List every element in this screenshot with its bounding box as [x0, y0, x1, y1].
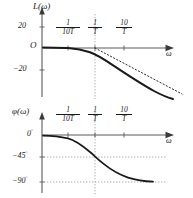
- bode-plot-figure: L(ω) 20 O −20 1 10T 1 T 10 T ω φ(ω) 0° −…: [0, 0, 193, 198]
- phase-exact-curve: [43, 136, 153, 182]
- magnitude-xtick-label-10overT-denominator: T: [116, 27, 132, 36]
- magnitude-ytick-label-20: 20: [18, 22, 26, 30]
- phase-ytick-label-0: 0°: [27, 128, 33, 138]
- phase-xtick-label-1overT-denominator: T: [88, 114, 102, 123]
- phase-ytick-label-0-unit: °: [31, 128, 33, 133]
- phase-xtick-label-1overT-numerator: 1: [88, 106, 102, 114]
- magnitude-xtick-label-1overT-denominator: T: [88, 27, 102, 36]
- phase-y-axis-arrow: [39, 112, 45, 120]
- phase-ytick-label-minus45-value: −45: [12, 151, 25, 160]
- magnitude-xtick-label-1overT: 1 T: [88, 19, 102, 35]
- phase-ytick-label-minus45: −45°: [12, 150, 27, 160]
- magnitude-xtick-label-1over10T-numerator: 1: [56, 19, 80, 27]
- magnitude-ytick-label-minus20: −20: [13, 65, 26, 73]
- magnitude-origin-label: O: [30, 41, 37, 50]
- phase-xtick-label-1over10T-denominator: 10T: [56, 114, 80, 123]
- phase-ytick-label-minus90-value: −90: [12, 176, 25, 185]
- phase-ytick-label-minus45-unit: °: [25, 150, 27, 155]
- phase-xtick-label-10overT: 10 T: [116, 106, 132, 122]
- magnitude-xtick-label-1over10T-denominator: 10T: [56, 27, 80, 36]
- phase-ytick-label-minus90-unit: °: [25, 175, 27, 180]
- phase-x-axis-label: ω: [166, 137, 172, 145]
- magnitude-xtick-label-1over10T: 1 10T: [56, 19, 80, 35]
- phase-xtick-label-1over10T: 1 10T: [56, 106, 80, 122]
- magnitude-xtick-label-10overT-numerator: 10: [116, 19, 132, 27]
- phase-xtick-label-1overT: 1 T: [88, 106, 102, 122]
- phase-panel: [39, 112, 174, 195]
- phase-xtick-label-10overT-numerator: 10: [116, 106, 132, 114]
- magnitude-x-axis-label: ω: [166, 50, 172, 58]
- magnitude-xtick-label-1overT-numerator: 1: [88, 19, 102, 27]
- phase-ytick-label-minus90: −90°: [12, 175, 27, 185]
- phase-xtick-label-10overT-denominator: T: [116, 114, 132, 123]
- phase-y-axis-label: φ(ω): [12, 107, 29, 116]
- magnitude-xtick-label-10overT: 10 T: [116, 19, 132, 35]
- magnitude-y-axis-label: L(ω): [33, 2, 50, 11]
- phase-xtick-label-1over10T-numerator: 1: [56, 106, 80, 114]
